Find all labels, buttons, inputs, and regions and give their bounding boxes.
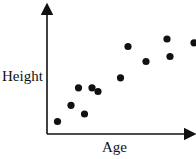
data-point (67, 102, 74, 109)
data-point (54, 118, 61, 125)
data-point (190, 39, 196, 46)
data-point (94, 88, 101, 95)
x-axis-label: Age (102, 139, 127, 155)
y-axis-label: Height (2, 68, 44, 84)
data-point (81, 110, 88, 117)
data-points (54, 35, 196, 125)
scatter-chart: Height Age (0, 0, 196, 159)
data-point (88, 84, 95, 91)
data-point (75, 84, 82, 91)
data-point (163, 35, 170, 42)
data-point (166, 53, 173, 60)
data-point (117, 74, 124, 81)
data-point (124, 43, 131, 50)
data-point (142, 58, 149, 65)
